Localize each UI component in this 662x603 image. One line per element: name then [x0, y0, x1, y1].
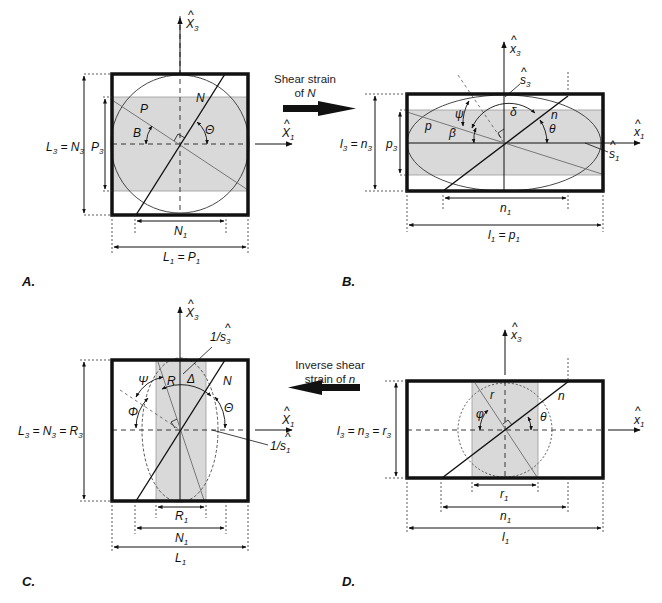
normal-label: n [551, 108, 558, 122]
panel-d: x3 ^ x1 ^ r n φ θ l3 = n3 = r3 r1 n1 l1 … [337, 320, 644, 589]
dim-l3-label: l3 = n3 = r3 [337, 424, 392, 440]
angle-delta-label: δ [510, 105, 517, 119]
transition-shear: Shear strain of N [274, 73, 356, 116]
plane-label: p [424, 119, 432, 133]
angle-delta-label: Δ [186, 372, 195, 386]
normal-label: N [223, 374, 232, 388]
angle-psi-label: Ψ [138, 374, 149, 388]
svg-text:^: ^ [284, 404, 290, 418]
dim-l1-label: l1 [502, 530, 509, 546]
svg-text:of N: of N [294, 87, 316, 99]
dim-r1-label: R1 [175, 509, 188, 525]
strain-diagram: X3 ^ X1 ^ P N B Θ L3 = N3 P3 N1 L1 = P1 … [0, 0, 662, 603]
normal-label: N [196, 91, 205, 105]
panel-label-b: B. [342, 274, 355, 289]
svg-text:Shear strain: Shear strain [274, 73, 336, 85]
svg-text:^: ^ [521, 65, 527, 79]
panel-label-c: C. [22, 574, 35, 589]
svg-text:^: ^ [284, 117, 290, 131]
dim-r1-label: r1 [500, 487, 508, 503]
dim-n1-label: n1 [500, 509, 511, 525]
panel-a: X3 ^ X1 ^ P N B Θ L3 = N3 P3 N1 L1 = P1 … [21, 8, 294, 289]
dim-p3-label: p3 [385, 137, 398, 153]
dim-l1-label: l1 = p1 [488, 228, 520, 244]
svg-text:^: ^ [635, 404, 641, 418]
angle-beta-label: β [448, 126, 456, 140]
angle-b-label: B [133, 126, 141, 140]
plane-label: P [140, 102, 148, 116]
svg-text:^: ^ [225, 321, 231, 335]
svg-text:^: ^ [188, 297, 194, 311]
panel-c: X3 ^ X1 ^ 1/s3 ^ 1/s1 ^ R N Ψ Φ Δ Θ L3 =… [18, 297, 294, 589]
panel-label-d: D. [342, 574, 355, 589]
svg-text:^: ^ [285, 430, 291, 444]
angle-theta-label: Θ [205, 123, 214, 137]
dim-n1-label: N1 [174, 224, 187, 240]
panel-b: x3 ^ x1 ^ s3 ^ s1 ^ p n ψ β δ θ l3 = n3 … [340, 33, 644, 289]
dim-n1-label: n1 [500, 201, 511, 217]
angle-phi-label: Φ [128, 405, 138, 419]
dim-l1-label: L1 = P1 [163, 250, 200, 266]
transition-inverse-shear: Inverse shear strain of n [288, 359, 365, 395]
angle-phi-label: φ [476, 407, 484, 421]
svg-text:^: ^ [188, 8, 194, 22]
plane-label: R [167, 374, 176, 388]
dim-p3-label: P3 [91, 140, 104, 156]
angle-psi-label: ψ [455, 107, 464, 121]
svg-text:^: ^ [635, 117, 641, 131]
svg-text:^: ^ [610, 138, 616, 152]
dim-n1-label: N1 [175, 531, 188, 547]
angle-theta-label: θ [540, 410, 547, 424]
dim-l3-label: l3 = n3 [340, 137, 372, 153]
dim-l3-label: L3 = N3 [46, 140, 84, 156]
angle-theta-label: θ [549, 122, 556, 136]
svg-text:^: ^ [511, 33, 517, 47]
angle-theta-label: Θ [224, 401, 233, 415]
svg-text:Inverse shear: Inverse shear [295, 359, 365, 371]
normal-label: n [558, 389, 565, 403]
panel-label-a: A. [21, 274, 35, 289]
svg-text:^: ^ [512, 320, 518, 334]
dim-l1-label: L1 [175, 551, 186, 567]
dim-l3-label: L3 = N3 = R3 [18, 424, 83, 440]
